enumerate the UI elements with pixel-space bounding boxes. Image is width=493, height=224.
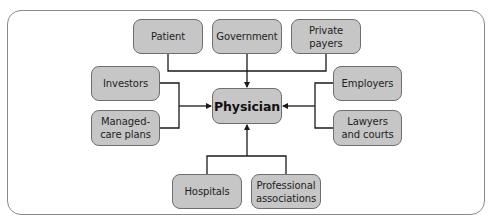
node-managed-care-plans: Managed- care plans <box>91 110 160 146</box>
node-label: Employers <box>342 77 394 90</box>
node-employers: Employers <box>333 66 402 101</box>
node-investors: Investors <box>91 66 160 101</box>
edge-hospitals <box>207 156 286 174</box>
node-label: Professional associations <box>256 179 316 205</box>
node-patient: Patient <box>133 19 203 54</box>
node-label: Physician <box>214 100 280 113</box>
node-label: Patient <box>151 30 185 43</box>
node-private-payers: Private payers <box>291 19 361 54</box>
node-label: Investors <box>103 77 148 90</box>
edge-investors <box>160 83 179 128</box>
node-physician: Physician <box>212 88 282 124</box>
edge-employers <box>315 83 333 128</box>
node-label: Government <box>216 30 277 43</box>
node-label: Managed- care plans <box>100 115 151 141</box>
node-label: Private payers <box>309 24 343 50</box>
node-government: Government <box>212 19 282 54</box>
node-lawyers-and-courts: Lawyers and courts <box>333 110 402 146</box>
node-professional-associations: Professional associations <box>251 174 321 209</box>
node-label: Hospitals <box>184 185 229 198</box>
node-label: Lawyers and courts <box>341 115 393 141</box>
node-hospitals: Hospitals <box>172 174 242 209</box>
